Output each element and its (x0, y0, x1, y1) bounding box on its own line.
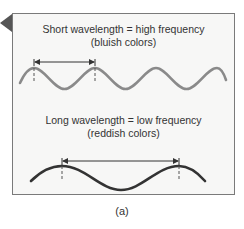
short-wave (20, 59, 226, 89)
long-wave (31, 158, 205, 190)
waves-graphic (0, 0, 244, 229)
figure-label: (a) (0, 205, 244, 217)
